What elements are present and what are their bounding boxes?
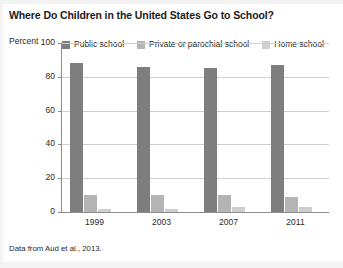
source-note: Data from Aud et al., 2013. — [9, 244, 102, 253]
y-tick-mark-60 — [58, 111, 61, 112]
y-tick-20: 20 — [25, 172, 55, 182]
page-edge-bottom — [0, 262, 343, 268]
gridline-100 — [62, 43, 329, 44]
bar-1999-public-school[interactable] — [70, 63, 83, 212]
gridline-40 — [62, 144, 329, 145]
plot-area: 020406080100 1999200320072011 — [61, 43, 329, 213]
x-tick-2007: 2007 — [199, 217, 259, 227]
x-tick-2011: 2011 — [266, 217, 326, 227]
y-tick-mark-100 — [58, 43, 61, 44]
y-tick-60: 60 — [25, 105, 55, 115]
y-tick-80: 80 — [25, 71, 55, 81]
bar-2003-public-school[interactable] — [137, 67, 150, 212]
gridline-60 — [62, 111, 329, 112]
y-tick-0: 0 — [25, 206, 55, 216]
chart-figure: Where Do Children in the United States G… — [0, 0, 343, 268]
x-tick-1999: 1999 — [65, 217, 125, 227]
page-edge-left — [0, 0, 3, 268]
y-tick-40: 40 — [25, 138, 55, 148]
y-tick-mark-40 — [58, 144, 61, 145]
bar-2011-public-school[interactable] — [271, 65, 284, 212]
x-tick-2003: 2003 — [132, 217, 192, 227]
bar-2011-home-school[interactable] — [299, 207, 312, 212]
bar-2007-home-school[interactable] — [232, 207, 245, 212]
bar-1999-home-school[interactable] — [98, 209, 111, 212]
y-tick-mark-20 — [58, 178, 61, 179]
chart-title: Where Do Children in the United States G… — [9, 9, 274, 21]
gridline-20 — [62, 178, 329, 179]
y-tick-mark-0 — [58, 212, 61, 213]
bar-2003-private-or-parochial-school[interactable] — [151, 195, 164, 212]
y-tick-100: 100 — [25, 37, 55, 47]
bar-1999-private-or-parochial-school[interactable] — [84, 195, 97, 212]
y-tick-mark-80 — [58, 77, 61, 78]
bar-2007-public-school[interactable] — [204, 68, 217, 212]
bar-2003-home-school[interactable] — [165, 209, 178, 212]
gridline-80 — [62, 77, 329, 78]
y-axis-line — [61, 43, 62, 213]
bar-2011-private-or-parochial-school[interactable] — [285, 197, 298, 212]
x-axis-line — [61, 212, 329, 213]
page-edge-top — [0, 0, 343, 4]
bar-2007-private-or-parochial-school[interactable] — [218, 195, 231, 212]
